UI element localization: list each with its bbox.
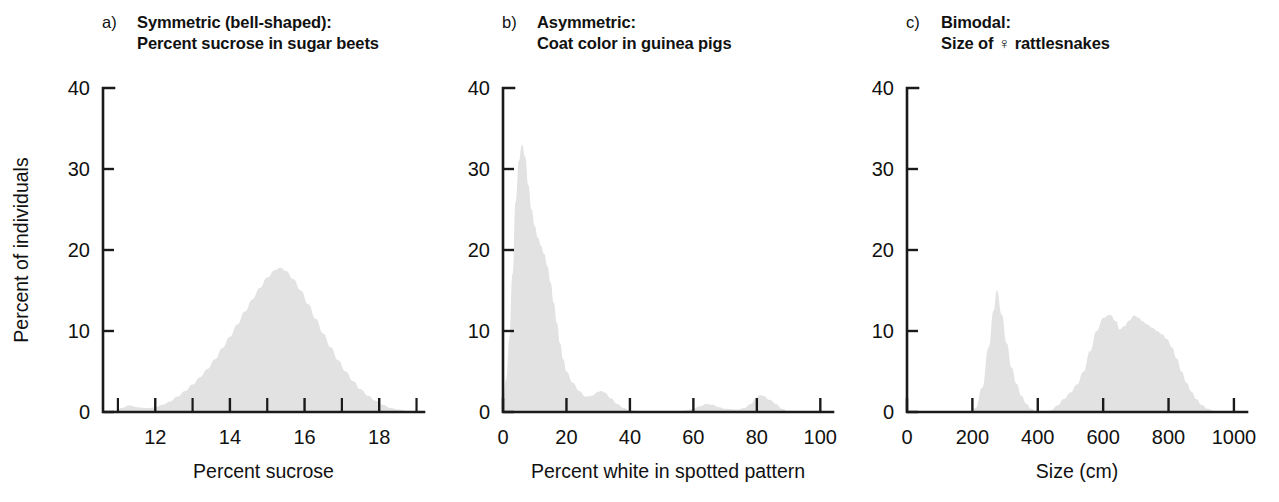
y-tick-label: 10: [872, 320, 894, 342]
x-tick-label: 600: [1086, 426, 1119, 448]
panel-b: b) Asymmetric: Coat color in guinea pigs…: [434, 0, 854, 502]
x-tick-label: 18: [368, 426, 390, 448]
x-tick-label: 1000: [1212, 426, 1257, 448]
distribution-area: [907, 291, 1247, 413]
y-tick-label: 40: [68, 77, 90, 99]
panel-b-plot: 010203040020406080100Percent white in sp…: [434, 0, 854, 502]
y-tick-label: 0: [479, 401, 490, 423]
distribution-area: [103, 268, 424, 412]
y-tick-label: 40: [872, 77, 894, 99]
panel-a: a) Symmetric (bell-shaped): Percent sucr…: [0, 0, 440, 502]
x-tick-label: 14: [219, 426, 241, 448]
x-axis-title: Percent sucrose: [193, 460, 334, 482]
x-tick-label: 0: [497, 426, 508, 448]
x-tick-label: 16: [293, 426, 315, 448]
figure-frequency-distributions: a) Symmetric (bell-shaped): Percent sucr…: [0, 0, 1279, 502]
axis-lines: [907, 88, 1247, 412]
panel-c-plot: 01020304002004006008001000Size (cm): [846, 0, 1279, 502]
x-tick-label: 40: [619, 426, 641, 448]
y-tick-label: 0: [883, 401, 894, 423]
y-axis-title: Percent of individuals: [10, 157, 32, 343]
y-tick-label: 30: [468, 158, 490, 180]
y-tick-label: 20: [68, 239, 90, 261]
x-tick-label: 80: [746, 426, 768, 448]
y-tick-label: 10: [68, 320, 90, 342]
panel-a-plot: 010203040Percent of individuals12141618P…: [0, 0, 440, 502]
y-tick-label: 10: [468, 320, 490, 342]
y-tick-label: 0: [79, 401, 90, 423]
x-tick-label: 400: [1021, 426, 1054, 448]
x-tick-label: 800: [1152, 426, 1185, 448]
x-tick-label: 20: [555, 426, 577, 448]
y-tick-label: 30: [872, 158, 894, 180]
x-tick-label: 60: [682, 426, 704, 448]
panel-c: c) Bimodal: Size of ♀ rattlesnakes 01020…: [846, 0, 1279, 502]
y-tick-label: 20: [468, 239, 490, 261]
y-tick-label: 20: [872, 239, 894, 261]
x-tick-label: 12: [144, 426, 166, 448]
distribution-area: [503, 145, 789, 412]
x-axis-title: Size (cm): [1036, 460, 1118, 482]
x-tick-label: 100: [804, 426, 837, 448]
y-tick-label: 40: [468, 77, 490, 99]
x-tick-label: 0: [901, 426, 912, 448]
x-axis-title: Percent white in spotted pattern: [531, 460, 805, 482]
y-tick-label: 30: [68, 158, 90, 180]
x-tick-label: 200: [956, 426, 989, 448]
